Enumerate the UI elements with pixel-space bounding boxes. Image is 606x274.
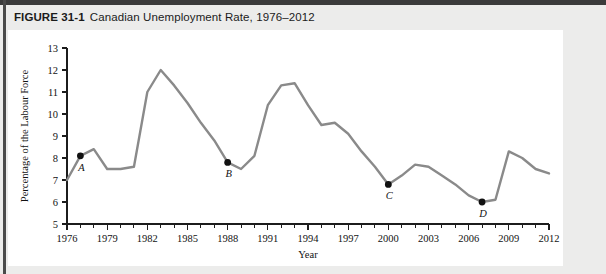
x-tick-label: 2012 xyxy=(539,233,560,244)
x-tick-label: 2009 xyxy=(498,233,519,244)
x-tick-label: 2006 xyxy=(458,233,479,244)
data-point-marker-b xyxy=(224,159,231,166)
data-point-label-c: C xyxy=(386,190,394,201)
figure-caption: Canadian Unemployment Rate, 1976–2012 xyxy=(85,11,315,23)
x-tick-label: 1979 xyxy=(97,233,118,244)
x-tick-label: 1982 xyxy=(137,233,158,244)
x-axis: 1976197919821985198819911994199720002003… xyxy=(57,224,560,260)
x-tick-label: 1976 xyxy=(57,233,78,244)
y-tick-label: 13 xyxy=(48,43,59,54)
x-axis-tick-labels: 1976197919821985198819911994199720002003… xyxy=(57,233,560,244)
y-tick-label: 7 xyxy=(53,175,58,186)
x-axis-major-ticks xyxy=(67,224,549,230)
y-axis: 5678910111213 Percentage of the Labour F… xyxy=(19,43,67,230)
x-tick-label: 1997 xyxy=(338,233,359,244)
data-point-marker-d xyxy=(479,199,486,206)
data-point-label-a: A xyxy=(77,162,85,173)
series-group xyxy=(67,70,549,202)
y-axis-title: Percentage of the Labour Force xyxy=(19,69,30,202)
data-point-label-d: D xyxy=(478,208,487,219)
figure-number: FIGURE 31-1 xyxy=(14,11,85,23)
x-tick-label: 2000 xyxy=(378,233,399,244)
x-tick-label: 1988 xyxy=(217,233,238,244)
y-tick-label: 12 xyxy=(48,65,59,76)
y-axis-tick-labels: 5678910111213 xyxy=(48,43,59,230)
x-tick-label: 2003 xyxy=(418,233,439,244)
y-tick-label: 6 xyxy=(53,197,58,208)
unemployment-line-chart: 5678910111213 Percentage of the Labour F… xyxy=(0,26,606,274)
data-point-marker-c xyxy=(385,181,392,188)
figure-title: FIGURE 31-1Canadian Unemployment Rate, 1… xyxy=(14,11,315,23)
y-tick-label: 5 xyxy=(53,219,58,230)
y-tick-label: 9 xyxy=(53,131,58,142)
page-top-rule xyxy=(0,0,606,5)
x-axis-title: Year xyxy=(298,249,318,260)
y-tick-label: 10 xyxy=(48,109,59,120)
x-tick-label: 1985 xyxy=(177,233,198,244)
y-tick-label: 8 xyxy=(53,153,58,164)
annotation-markers: ABCD xyxy=(77,152,487,219)
y-tick-label: 11 xyxy=(48,87,58,98)
x-tick-label: 1994 xyxy=(298,233,320,244)
x-tick-label: 1991 xyxy=(257,233,278,244)
series-line-unemployment-rate xyxy=(67,70,549,202)
data-point-marker-a xyxy=(77,152,84,159)
y-axis-ticks xyxy=(62,48,67,224)
figure-container: FIGURE 31-1Canadian Unemployment Rate, 1… xyxy=(0,0,606,274)
data-point-label-b: B xyxy=(225,168,232,179)
